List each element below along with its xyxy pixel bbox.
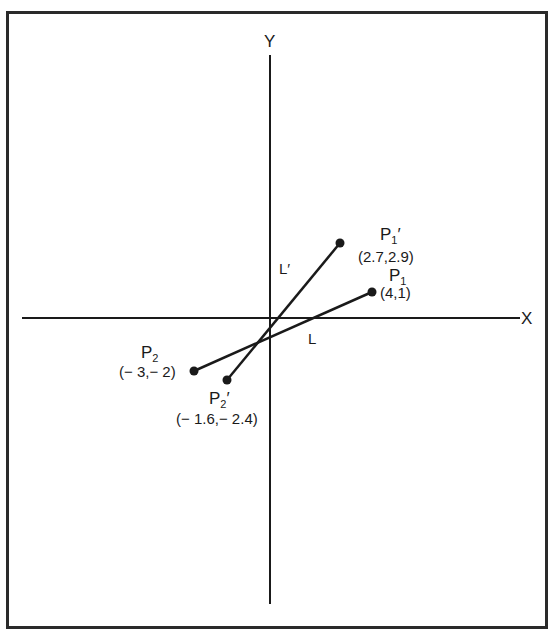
svg-text:P2′: P2′ [209,389,230,410]
point-P2 [190,367,199,376]
label-P2: P2 (− 3,− 2) [119,343,176,380]
point-P2-prime [223,376,232,385]
y-axis-label: Y [264,32,275,51]
P2-coords: (− 3,− 2) [119,363,176,380]
line-L-prime-label: L′ [279,260,290,277]
line-L-label: L [308,330,316,347]
P2-prime-name: P [209,389,220,408]
label-P1: P1 (4,1) [380,266,411,301]
svg-text:P1′: P1′ [380,225,401,246]
label-P1-prime: P1′ (2.7,2.9) [358,225,414,265]
P1-coords: (4,1) [380,284,411,301]
P1-prime-coords: (2.7,2.9) [358,248,414,265]
P1-prime-mark: ′ [397,225,400,244]
P2-prime-mark: ′ [226,389,229,408]
point-P1 [368,288,377,297]
diagram-canvas: Y X L L′ P1′ (2.7,2.9) P1 (4,1) P2 (− 3,… [0,0,553,635]
P2-prime-coords: (− 1.6,− 2.4) [176,410,258,427]
line-L [194,292,372,371]
P1-name: P [389,266,400,285]
svg-text:P2: P2 [141,343,158,364]
P1-prime-name: P [380,225,391,244]
P2-name: P [141,343,152,362]
point-P1-prime [336,239,345,248]
x-axis-label: X [521,309,532,328]
label-P2-prime: P2′ (− 1.6,− 2.4) [176,389,258,427]
